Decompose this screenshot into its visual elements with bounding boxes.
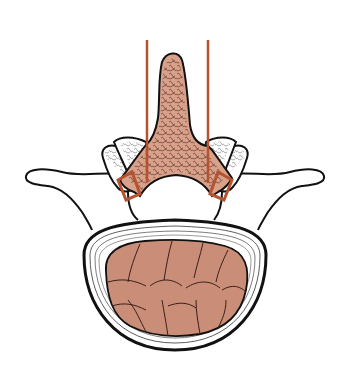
vertebra-svg <box>0 0 350 370</box>
vertebra-illustration <box>0 0 350 370</box>
